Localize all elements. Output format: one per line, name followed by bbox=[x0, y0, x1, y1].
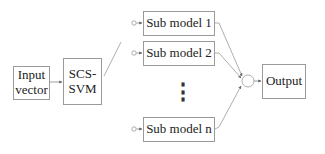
input-vector-line2: vector bbox=[15, 83, 47, 98]
sub-model-1-box: Sub model 1 bbox=[143, 11, 215, 36]
scs-svm-line1: SCS- bbox=[69, 67, 96, 82]
input-vector-line1: Input bbox=[18, 68, 45, 83]
ellipsis-vertical: ⋮ bbox=[172, 84, 178, 100]
sub-model-2-label: Sub model 2 bbox=[146, 46, 212, 61]
sub-model-n-label: Sub model n bbox=[146, 122, 212, 137]
sub-model-2-box: Sub model 2 bbox=[143, 41, 215, 66]
output-box: Output bbox=[262, 64, 306, 99]
sub-model-1-label: Sub model 1 bbox=[146, 16, 212, 31]
sub-model-n-box: Sub model n bbox=[143, 117, 215, 142]
scs-svm-box: SCS- SVM bbox=[63, 58, 102, 105]
input-vector-box: Input vector bbox=[13, 66, 50, 100]
scs-svm-line2: SVM bbox=[68, 82, 96, 97]
output-label: Output bbox=[266, 74, 302, 89]
summing-node-icon bbox=[242, 75, 254, 87]
